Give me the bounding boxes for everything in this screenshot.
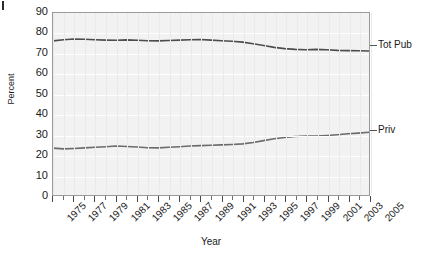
vertical-gridline — [265, 13, 266, 195]
x-tick-label: 1999 — [319, 200, 343, 224]
x-tick-label: 1993 — [255, 200, 279, 224]
x-tick-label: 2005 — [383, 200, 407, 224]
series-label-priv: Priv — [378, 124, 395, 135]
vertical-gridline — [254, 13, 255, 195]
y-tick-label: 0 — [22, 190, 48, 201]
gridline — [53, 33, 369, 34]
vertical-gridline — [53, 13, 54, 195]
vertical-gridline — [148, 13, 149, 195]
gridline — [53, 177, 369, 178]
x-axis-tick-labels: 1975197719791981198319851987198919911993… — [52, 200, 370, 240]
vertical-gridline — [223, 13, 224, 195]
series-lines — [53, 13, 369, 195]
vertical-gridline — [180, 13, 181, 195]
vertical-gridline — [350, 13, 351, 195]
vertical-gridline — [318, 13, 319, 195]
y-tick-label: 10 — [22, 170, 48, 181]
vertical-gridline — [371, 13, 372, 195]
plot-area — [52, 12, 370, 196]
y-tick-label: 70 — [22, 47, 48, 58]
y-tick-label: 60 — [22, 67, 48, 78]
x-tick-label: 1987 — [192, 200, 216, 224]
y-tick-label: 40 — [22, 108, 48, 119]
vertical-gridline — [233, 13, 234, 195]
series-label-stub-tot-pub — [370, 45, 377, 46]
x-tick-label: 1977 — [86, 200, 110, 224]
x-tick-label: 1995 — [277, 200, 301, 224]
series-line — [53, 39, 369, 51]
x-tick-label: 1985 — [171, 200, 195, 224]
y-tick-label: 90 — [22, 6, 48, 17]
series-label-tot-pub: Tot Pub — [378, 39, 412, 50]
y-axis-tick-labels: 9080706050403020100 — [20, 0, 48, 255]
x-tick-label: 1975 — [65, 200, 89, 224]
line-chart: Percent 9080706050403020100 197519771979… — [0, 0, 424, 255]
crop-mark-icon — [2, 1, 4, 10]
vertical-gridline — [117, 13, 118, 195]
gridline — [53, 115, 369, 116]
vertical-gridline — [74, 13, 75, 195]
y-tick-label: 80 — [22, 26, 48, 37]
vertical-gridline — [276, 13, 277, 195]
gridline — [53, 156, 369, 157]
vertical-gridline — [170, 13, 171, 195]
x-tick-label: 1997 — [298, 200, 322, 224]
gridline — [53, 136, 369, 137]
gridline — [53, 74, 369, 75]
vertical-gridline — [339, 13, 340, 195]
y-axis-title: Percent — [6, 59, 16, 119]
vertical-gridline — [329, 13, 330, 195]
vertical-gridline — [212, 13, 213, 195]
x-tick-label: 1989 — [213, 200, 237, 224]
series-label-stub-priv — [370, 130, 377, 131]
vertical-gridline — [201, 13, 202, 195]
vertical-gridline — [64, 13, 65, 195]
x-tick-label: 2003 — [361, 200, 385, 224]
vertical-gridline — [159, 13, 160, 195]
vertical-gridline — [95, 13, 96, 195]
x-tick-label: 2001 — [340, 200, 364, 224]
gridline — [53, 95, 369, 96]
x-axis-title: Year — [52, 236, 370, 247]
x-tick-label: 1979 — [107, 200, 131, 224]
x-tick — [370, 196, 371, 202]
vertical-gridline — [138, 13, 139, 195]
vertical-gridline — [191, 13, 192, 195]
y-tick-label: 20 — [22, 149, 48, 160]
x-tick-label: 1981 — [128, 200, 152, 224]
vertical-gridline — [286, 13, 287, 195]
vertical-gridline — [360, 13, 361, 195]
vertical-gridline — [307, 13, 308, 195]
vertical-gridline — [85, 13, 86, 195]
x-tick-label: 1983 — [149, 200, 173, 224]
vertical-gridline — [244, 13, 245, 195]
y-tick-label: 30 — [22, 129, 48, 140]
gridline — [53, 54, 369, 55]
x-tick-label: 1991 — [234, 200, 258, 224]
vertical-gridline — [297, 13, 298, 195]
y-tick-label: 50 — [22, 88, 48, 99]
vertical-gridline — [127, 13, 128, 195]
vertical-gridline — [106, 13, 107, 195]
